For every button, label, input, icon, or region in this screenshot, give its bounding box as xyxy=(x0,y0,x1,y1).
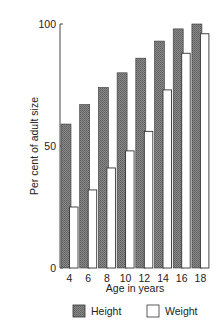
bar-weight xyxy=(163,90,172,268)
bar-group-age-8 xyxy=(98,87,115,268)
bar-group-age-12 xyxy=(136,58,153,268)
chart-canvas: 050100 4681012141618 Per cent of adult s… xyxy=(0,0,224,331)
x-tick-label: 4 xyxy=(67,272,73,284)
bar-group-age-16 xyxy=(173,29,190,268)
bar-weight xyxy=(70,207,79,268)
x-tick-label: 6 xyxy=(85,272,91,284)
x-tick-label: 18 xyxy=(195,272,207,284)
legend-swatch-weight xyxy=(147,305,159,317)
bars xyxy=(61,24,209,268)
bar-group-age-14 xyxy=(155,41,172,268)
growth-bar-chart: 050100 4681012141618 Per cent of adult s… xyxy=(0,0,224,331)
legend-swatch-height xyxy=(73,305,85,317)
bar-weight xyxy=(88,190,97,268)
y-axis: 050100 xyxy=(38,18,63,274)
bar-group-age-6 xyxy=(80,105,97,268)
bar-group-age-4 xyxy=(61,124,78,268)
bar-weight xyxy=(144,131,153,268)
y-tick-label: 0 xyxy=(50,262,56,274)
bar-weight xyxy=(182,53,191,268)
bar-group-age-10 xyxy=(117,73,134,268)
bar-weight xyxy=(200,34,209,268)
y-tick-label: 100 xyxy=(38,18,56,30)
legend-label-height: Height xyxy=(91,305,121,317)
bar-weight xyxy=(107,168,116,268)
y-tick-label: 50 xyxy=(44,140,56,152)
legend: Height Weight xyxy=(73,305,198,317)
bar-group-age-18 xyxy=(192,24,209,268)
bar-weight xyxy=(126,151,135,268)
x-tick-label: 16 xyxy=(176,272,188,284)
legend-label-weight: Weight xyxy=(165,305,198,317)
x-axis-label: Age in years xyxy=(106,282,164,294)
y-axis-label: Per cent of adult size xyxy=(28,97,40,195)
